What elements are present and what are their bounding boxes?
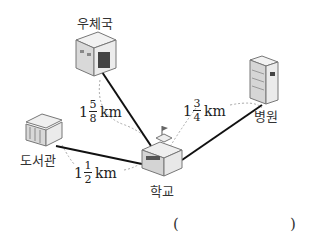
whole-part: 1 (74, 165, 83, 181)
denominator: 8 (89, 113, 96, 124)
post-office-label: 우체국 (77, 13, 113, 32)
denominator: 2 (84, 174, 91, 185)
whole-part: 1 (183, 103, 192, 119)
answer-open-paren: ( (173, 215, 179, 233)
unit: km (204, 103, 226, 119)
distance-post-office-school: 1 5 8 km (79, 99, 122, 124)
whole-part: 1 (79, 104, 88, 120)
fraction: 5 8 (89, 99, 97, 124)
hospital-label: 병원 (254, 106, 278, 125)
numerator: 5 (89, 99, 96, 110)
numerator: 1 (84, 160, 91, 171)
distance-hospital-school: 1 3 4 km (183, 98, 226, 123)
school-icon (142, 126, 182, 176)
library-label: 도서관 (20, 150, 56, 169)
hospital-icon (250, 56, 278, 104)
post-office-icon (76, 32, 116, 76)
unit: km (95, 165, 117, 181)
fraction: 1 2 (84, 160, 92, 185)
numerator: 3 (193, 98, 200, 109)
library-icon (26, 114, 62, 146)
denominator: 4 (193, 112, 200, 123)
fraction: 3 4 (193, 98, 201, 123)
unit: km (100, 104, 122, 120)
school-label: 학교 (150, 181, 174, 200)
distance-library-school: 1 1 2 km (74, 160, 117, 185)
answer-close-paren: ) (290, 215, 296, 233)
